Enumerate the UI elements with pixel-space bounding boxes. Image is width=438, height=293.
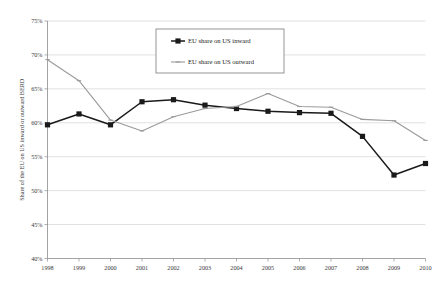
- data-point-marker: [360, 134, 365, 139]
- data-point-marker: [328, 111, 333, 116]
- y-tick-label: 70%: [31, 51, 42, 58]
- data-point-marker: [45, 122, 50, 127]
- y-tick-label: 55%: [31, 153, 42, 160]
- x-tick-label: 2010: [419, 264, 431, 271]
- legend-label: EU share on US inward: [188, 37, 251, 44]
- data-point-marker: [76, 111, 81, 116]
- x-tick-label: 2006: [293, 264, 305, 271]
- y-tick-label: 75%: [31, 17, 42, 24]
- y-tick-label: 60%: [31, 119, 42, 126]
- line-chart: 75%70%65%60%55%50%45%40% 199819992000200…: [0, 0, 438, 293]
- legend-label: EU share on US outward: [188, 58, 255, 65]
- legend-swatch-marker: [175, 38, 180, 43]
- data-point-marker: [202, 103, 207, 108]
- y-tick-label: 40%: [31, 255, 42, 262]
- x-axis-ticks: 1998199920002001200220032004200520062007…: [41, 259, 431, 271]
- data-point-marker: [297, 110, 302, 115]
- data-point-marker: [391, 172, 396, 177]
- x-tick-label: 2000: [104, 264, 116, 271]
- x-tick-label: 2001: [136, 264, 148, 271]
- x-tick-label: 2005: [262, 264, 274, 271]
- data-point-marker: [423, 161, 428, 166]
- y-tick-label: 65%: [31, 85, 42, 92]
- x-tick-label: 2007: [325, 264, 337, 271]
- x-tick-label: 2009: [388, 264, 400, 271]
- y-tick-label: 45%: [31, 221, 42, 228]
- x-tick-label: 2004: [230, 264, 242, 271]
- y-tick-label: 50%: [31, 187, 42, 194]
- x-tick-label: 2008: [356, 264, 368, 271]
- series-group: [45, 60, 428, 178]
- data-point-marker: [108, 122, 113, 127]
- data-point-marker: [139, 99, 144, 104]
- y-axis-title: Share of the EU on US inward or outward …: [18, 78, 25, 201]
- data-point-marker: [171, 97, 176, 102]
- x-tick-label: 2002: [167, 264, 179, 271]
- y-axis-ticks: 75%70%65%60%55%50%45%40%: [31, 17, 47, 262]
- chart-container: 75%70%65%60%55%50%45%40% 199819992000200…: [0, 0, 438, 293]
- legend: EU share on US inwardEU share on US outw…: [156, 29, 284, 73]
- x-tick-label: 2003: [199, 264, 211, 271]
- x-tick-label: 1998: [41, 264, 53, 271]
- x-tick-label: 1999: [73, 264, 85, 271]
- data-point-marker: [265, 109, 270, 114]
